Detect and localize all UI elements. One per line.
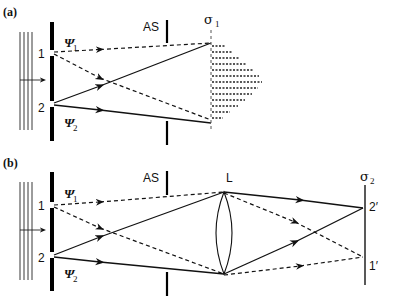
- interference-pattern: [212, 46, 262, 118]
- svg-text:2: 2: [73, 123, 78, 133]
- rays-to-screen: [224, 192, 363, 275]
- rays: [54, 43, 211, 123]
- image-point-2-label: 2′: [369, 200, 379, 214]
- psi-1-label: Ψ 1: [64, 186, 78, 204]
- panel-b-label: (b): [3, 156, 18, 170]
- svg-text:2: 2: [73, 274, 78, 284]
- psi-2-label: Ψ 2: [64, 266, 78, 284]
- double-slit-diagram: (a) 1 2 Ψ 1 Ψ 2 AS: [0, 0, 395, 306]
- svg-text:σ: σ: [360, 169, 369, 184]
- psi-2-label: Ψ 2: [64, 115, 78, 133]
- slit-1-label: 1: [38, 47, 45, 61]
- svg-text:1: 1: [215, 19, 220, 29]
- screen-sigma-1-label: σ 1: [204, 12, 220, 29]
- aperture-label: AS: [143, 20, 159, 34]
- panel-b: (b) 1 2 Ψ 1 Ψ 2 AS: [3, 156, 379, 296]
- slit-2-label: 2: [38, 251, 45, 265]
- panel-a-label: (a): [3, 5, 17, 19]
- panel-a: (a) 1 2 Ψ 1 Ψ 2 AS: [3, 5, 262, 145]
- image-point-1-label: 1′: [369, 259, 379, 273]
- lens: [216, 192, 232, 274]
- slit-2-label: 2: [38, 101, 45, 115]
- svg-text:1: 1: [73, 43, 78, 53]
- plane-wave-icon: [20, 182, 32, 280]
- rays-to-lens: [54, 192, 224, 274]
- svg-text:2: 2: [370, 176, 375, 186]
- lens-label: L: [226, 171, 233, 185]
- svg-text:σ: σ: [204, 12, 213, 27]
- svg-text:1: 1: [73, 194, 78, 204]
- screen-sigma-2-label: σ 2: [360, 169, 375, 186]
- slit-1-label: 1: [38, 199, 45, 213]
- aperture-label: AS: [143, 171, 159, 185]
- plane-wave-icon: [20, 32, 32, 130]
